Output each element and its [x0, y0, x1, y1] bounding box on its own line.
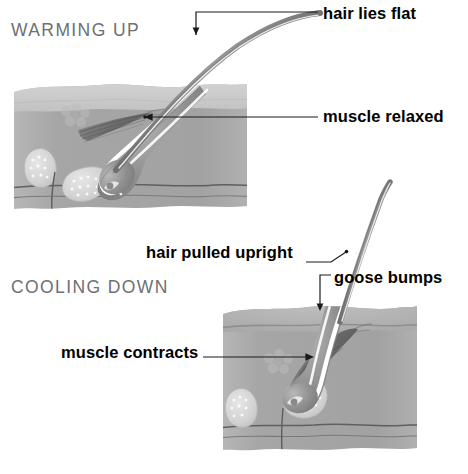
lower-skin-block: [219, 298, 422, 450]
lower-sebaceous-gland-left: [225, 389, 257, 428]
upper-epidermis: [10, 80, 252, 112]
upper-sebaceous-gland-left: [24, 149, 56, 188]
section-title-cooling-down: COOLING DOWN: [11, 277, 169, 298]
section-title-warming-up: WARMING UP: [11, 20, 140, 41]
upper-skin-block: [10, 80, 256, 210]
leader-hair-pulled-upright: [306, 250, 348, 262]
callout-goose-bumps: goose bumps: [334, 268, 442, 287]
callout-muscle-contracts: muscle contracts: [61, 343, 198, 362]
callout-hair-lies-flat: hair lies flat: [323, 4, 416, 23]
diagram-artwork: [0, 0, 468, 474]
callout-muscle-relaxed: muscle relaxed: [323, 107, 444, 126]
leader-goose-bumps: [317, 275, 331, 311]
callout-hair-pulled-upright: hair pulled upright: [146, 243, 293, 262]
goose-bumps-diagram: WARMING UP COOLING DOWN hair lies flat m…: [0, 0, 468, 474]
